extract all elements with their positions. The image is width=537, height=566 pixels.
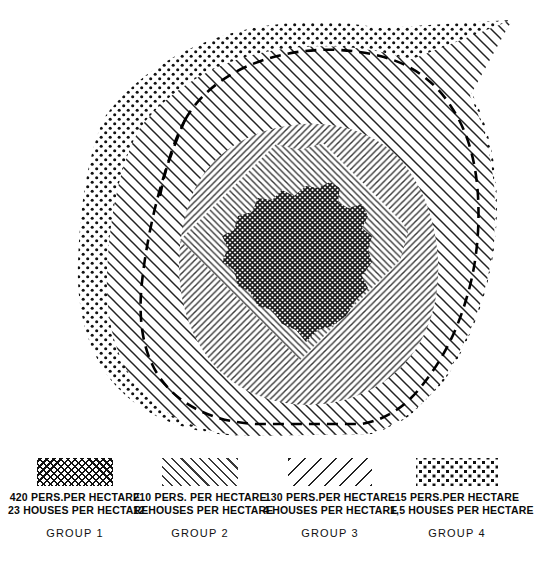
legend-item-group-4: 15 PERS.PER HECTARE 1,5 HOUSES PER HECTA… [390, 452, 524, 539]
legend: 420 PERS.PER HECTARE 23 HOUSES PER HECTA… [0, 452, 537, 566]
dotted-swatch [416, 458, 498, 486]
density-map-figure: 420 PERS.PER HECTARE 23 HOUSES PER HECTA… [0, 0, 537, 566]
legend-group-label-1: GROUP 1 [8, 527, 142, 539]
legend-item-group-1: 420 PERS.PER HECTARE 23 HOUSES PER HECTA… [8, 452, 142, 539]
legend-persons-group-1: 420 PERS.PER HECTARE [8, 491, 142, 504]
legend-group-label-4: GROUP 4 [390, 527, 524, 539]
legend-houses-group-1: 23 HOUSES PER HECTARE [8, 504, 142, 517]
legend-group-label-2: GROUP 2 [133, 527, 267, 539]
map-area [0, 0, 537, 452]
legend-group-label-3: GROUP 3 [263, 527, 397, 539]
legend-item-group-2: 210 PERS. PER HECTARE 12 HOUSES PER HECT… [133, 452, 267, 539]
legend-persons-group-2: 210 PERS. PER HECTARE [133, 491, 267, 504]
legend-persons-group-4: 15 PERS.PER HECTARE [390, 491, 524, 504]
dense-diagonal-swatch [162, 458, 238, 486]
legend-houses-group-2: 12 HOUSES PER HECTARE [133, 504, 267, 517]
legend-persons-group-3: 130 PERS.PER HECTARE [263, 491, 397, 504]
legend-houses-group-4: 1,5 HOUSES PER HECTARE [390, 504, 524, 517]
sparse-diagonal-swatch [288, 458, 372, 486]
cross-hatch-swatch [37, 458, 113, 486]
map-svg [0, 0, 537, 452]
legend-item-group-3: 130 PERS.PER HECTARE 4 HOUSES PER HECTAR… [263, 452, 397, 539]
legend-houses-group-3: 4 HOUSES PER HECTARE [263, 504, 397, 517]
